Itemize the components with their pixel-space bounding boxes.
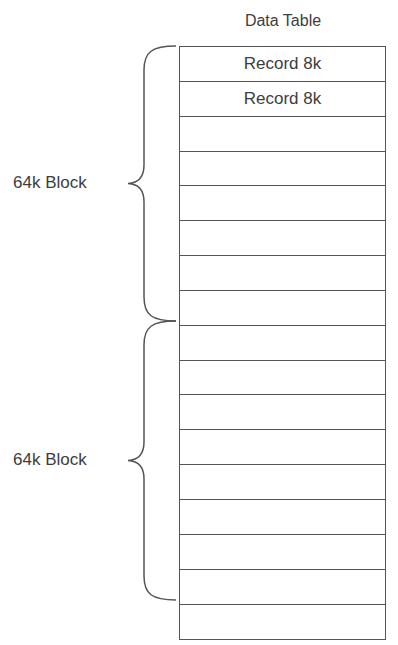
curly-brace-icon <box>128 321 176 600</box>
block-label: 64k Block <box>13 450 87 470</box>
block-label: 64k Block <box>13 173 87 193</box>
brace-lines <box>0 0 398 645</box>
curly-brace-icon <box>128 46 176 321</box>
